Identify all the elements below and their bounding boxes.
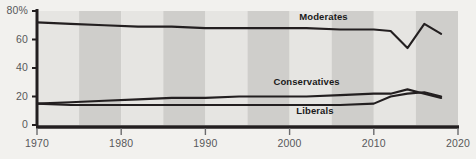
x-axis-tick-label: 2010 [352,137,396,149]
y-axis-tick-label: 80% [0,4,28,16]
background-band [79,11,121,125]
background-band [374,11,416,125]
chart-canvas [0,0,476,159]
series-label-conservatives: Conservatives [273,76,339,87]
x-axis-tick-label: 2020 [436,137,476,149]
y-axis-tick-label: 20 [0,90,28,102]
x-axis-tick-label: 2000 [268,137,312,149]
background-band [332,11,374,125]
background-band [121,11,163,125]
background-band [37,11,79,125]
line-chart: 0 20 40 60 80% 1970 1980 1990 2000 2010 … [0,0,476,159]
series-label-liberals: Liberals [296,105,333,116]
x-axis-tick-label: 1980 [99,137,143,149]
x-axis-tick-label: 1990 [183,137,227,149]
y-axis-tick-label: 0 [0,118,28,130]
y-axis-tick-label: 60 [0,33,28,45]
series-label-moderates: Moderates [299,11,347,22]
x-axis-tick-label: 1970 [15,137,59,149]
y-axis-tick-label: 40 [0,61,28,73]
